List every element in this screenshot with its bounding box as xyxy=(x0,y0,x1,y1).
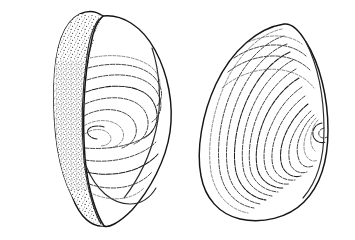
illustration-plate xyxy=(0,0,355,240)
right-valve-specimen xyxy=(199,24,328,221)
shell-illustration-canvas xyxy=(0,0,355,240)
left-valve-specimen xyxy=(45,8,171,234)
